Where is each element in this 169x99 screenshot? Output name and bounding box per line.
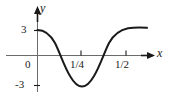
y-tick-label-3: 3 bbox=[21, 24, 27, 35]
y-axis-label: y bbox=[40, 2, 45, 14]
x-axis-arrowhead bbox=[147, 52, 155, 59]
x-tick-label-quarter: 1/4 bbox=[70, 59, 84, 70]
coordinate-plot bbox=[0, 0, 169, 99]
origin-label: 0 bbox=[25, 59, 31, 70]
y-axis bbox=[34, 6, 41, 92]
x-tick-label-half: 1/2 bbox=[115, 59, 129, 70]
x-axis-label: x bbox=[157, 47, 162, 59]
y-tick-label-neg3: -3 bbox=[15, 79, 24, 90]
figure-container: y x 3 -3 0 1/4 1/2 bbox=[0, 0, 169, 99]
cosine-curve bbox=[38, 27, 148, 86]
